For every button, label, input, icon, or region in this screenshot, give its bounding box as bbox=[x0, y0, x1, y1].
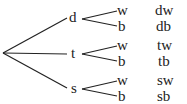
outcome-sw: sw bbox=[157, 73, 174, 88]
outcome-tw: tw bbox=[157, 38, 172, 53]
outcome-db: db bbox=[156, 19, 171, 34]
leaf-d-b: b bbox=[118, 19, 126, 34]
outcome-tb: tb bbox=[158, 54, 170, 69]
leaf-s-w: w bbox=[117, 73, 128, 88]
node-t: t bbox=[71, 46, 75, 61]
leaf-s-b: b bbox=[118, 89, 126, 104]
leaf-t-b: b bbox=[118, 54, 126, 69]
node-d: d bbox=[69, 10, 77, 25]
leaf-t-w: w bbox=[117, 38, 128, 53]
tree-diagram: d t s w b w b w b dw db tw tb sw sb bbox=[0, 0, 187, 104]
leaf-d-w: w bbox=[117, 3, 128, 18]
outcome-sb: sb bbox=[157, 89, 170, 104]
node-s: s bbox=[71, 81, 77, 96]
outcome-dw: dw bbox=[155, 3, 173, 18]
